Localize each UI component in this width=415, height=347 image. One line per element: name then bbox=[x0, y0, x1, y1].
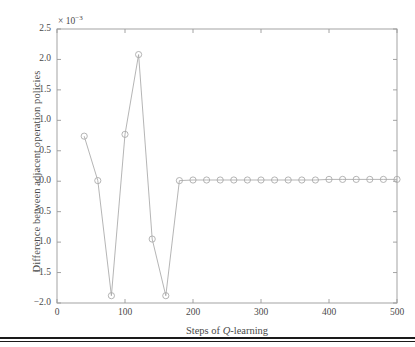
x-axis-ticks bbox=[57, 29, 397, 303]
y-axis-ticks bbox=[57, 29, 397, 303]
x-tick-label: 300 bbox=[241, 307, 281, 317]
y-tick-label: −2.0 bbox=[17, 297, 51, 307]
axes-box bbox=[57, 29, 397, 303]
footer-rule-thin bbox=[0, 341, 415, 342]
y-tick-label: 2.0 bbox=[17, 53, 51, 63]
chart-plot bbox=[0, 0, 415, 347]
y-tick-label: 0.0 bbox=[17, 175, 51, 185]
figure-container: × 10−3 Difference between adjacent opera… bbox=[0, 0, 415, 347]
data-series-markers bbox=[81, 51, 400, 298]
y-tick-label: −0.5 bbox=[17, 206, 51, 216]
y-tick-label: 1.0 bbox=[17, 114, 51, 124]
y-tick-label: −1.5 bbox=[17, 267, 51, 277]
data-series-line bbox=[84, 55, 397, 296]
x-tick-label: 500 bbox=[377, 307, 415, 317]
x-tick-label: 400 bbox=[309, 307, 349, 317]
y-tick-label: −1.0 bbox=[17, 236, 51, 246]
y-tick-label: 2.5 bbox=[17, 23, 51, 33]
y-tick-label: 1.5 bbox=[17, 84, 51, 94]
x-tick-label: 100 bbox=[105, 307, 145, 317]
footer-rule-thick bbox=[0, 337, 415, 339]
x-tick-label: 200 bbox=[173, 307, 213, 317]
y-tick-label: 0.5 bbox=[17, 145, 51, 155]
x-tick-label: 0 bbox=[37, 307, 77, 317]
